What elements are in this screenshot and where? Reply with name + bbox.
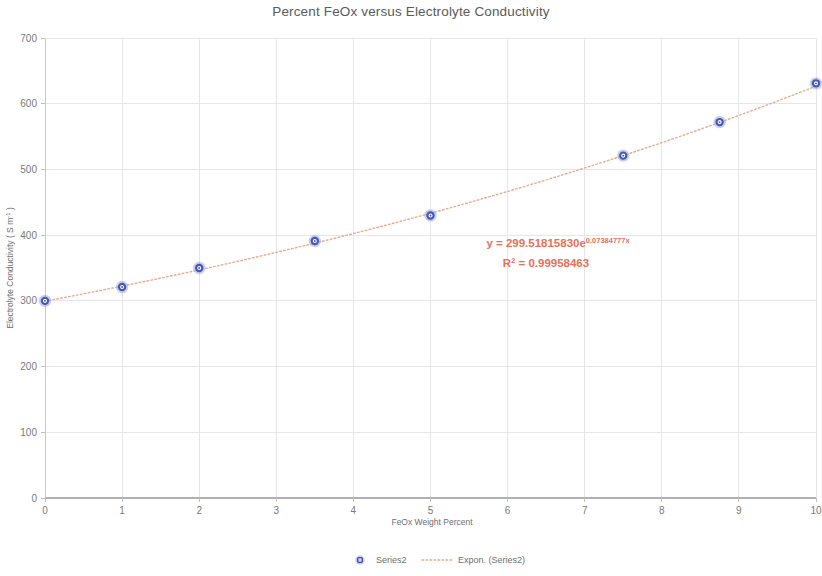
vertical-gridlines <box>122 38 816 498</box>
svg-text:700: 700 <box>20 33 37 44</box>
svg-text:100: 100 <box>20 427 37 438</box>
chart-legend: Series2Expon. (Series2) <box>355 555 525 565</box>
y-axis-tick-labels: 0100200300400500600700 <box>20 33 37 504</box>
chart-plot-area: 0100200300400500600700 012345678910 FeOx… <box>0 0 822 576</box>
data-point-marker <box>39 295 51 307</box>
svg-text:10: 10 <box>810 505 822 516</box>
svg-text:600: 600 <box>20 98 37 109</box>
svg-text:400: 400 <box>20 230 37 241</box>
svg-text:3: 3 <box>274 505 280 516</box>
chart-container: Percent FeOx versus Electrolyte Conducti… <box>0 0 822 576</box>
x-axis-title: FeOx Weight Percent <box>391 517 473 527</box>
legend-label-series2: Series2 <box>376 555 407 565</box>
svg-text:0: 0 <box>31 493 37 504</box>
legend-item-series2: Series2 <box>355 555 406 565</box>
data-point-marker <box>810 77 822 89</box>
x-axis-tick-labels: 012345678910 <box>42 505 822 516</box>
svg-text:500: 500 <box>20 164 37 175</box>
svg-text:6: 6 <box>505 505 511 516</box>
y-axis-title: Electrolyte Conductivity ( S m-1 ) <box>5 207 15 329</box>
svg-text:2: 2 <box>196 505 202 516</box>
svg-text:0: 0 <box>42 505 48 516</box>
svg-text:1: 1 <box>119 505 125 516</box>
data-point-marker <box>424 209 436 221</box>
svg-text:5: 5 <box>428 505 434 516</box>
svg-text:9: 9 <box>736 505 742 516</box>
svg-text:8: 8 <box>659 505 665 516</box>
svg-text:300: 300 <box>20 295 37 306</box>
data-point-marker <box>309 235 321 247</box>
data-point-marker <box>713 116 725 128</box>
data-point-marker <box>193 262 205 274</box>
data-point-marker <box>116 281 128 293</box>
data-point-marker <box>617 149 629 161</box>
trendline-r-squared-line: R2 = 0.99958463 <box>503 256 589 270</box>
svg-text:7: 7 <box>582 505 588 516</box>
legend-label-trendline: Expon. (Series2) <box>458 555 525 565</box>
trendline-equation-line: y = 299.51815830e0.07384777x <box>486 236 630 250</box>
svg-text:4: 4 <box>351 505 357 516</box>
svg-text:200: 200 <box>20 361 37 372</box>
legend-item-trendline: Expon. (Series2) <box>422 555 525 565</box>
